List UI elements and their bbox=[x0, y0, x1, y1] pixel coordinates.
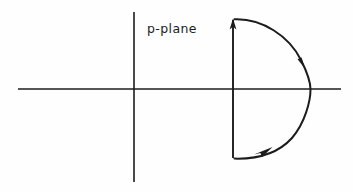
p-plane-diagram: p-plane bbox=[0, 0, 353, 192]
plane-label: p-plane bbox=[147, 21, 197, 36]
figure-canvas: p-plane bbox=[0, 0, 353, 192]
